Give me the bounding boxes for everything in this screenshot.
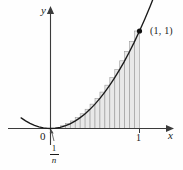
x-axis-label: x (168, 130, 173, 141)
riemann-rectangle (130, 42, 135, 129)
subinterval-width-label: 1 n (47, 144, 61, 165)
riemann-rectangle (135, 31, 140, 129)
x-tick-label-one: 1 (136, 133, 141, 143)
riemann-sum-figure: y x 0 1 (1, 1) 1 n (0, 0, 183, 170)
origin-label: 0 (40, 131, 46, 142)
y-axis-label: y (41, 5, 46, 16)
point-label: (1, 1) (150, 26, 173, 36)
width-numerator: 1 (47, 144, 61, 153)
y-axis-arrowhead (47, 6, 54, 14)
riemann-rectangle (115, 70, 120, 129)
riemann-rectangle (125, 51, 130, 128)
width-denominator: n (47, 156, 61, 165)
point-marker-one-one (137, 28, 142, 33)
riemann-rectangles (51, 31, 140, 129)
riemann-rectangle (120, 61, 125, 129)
